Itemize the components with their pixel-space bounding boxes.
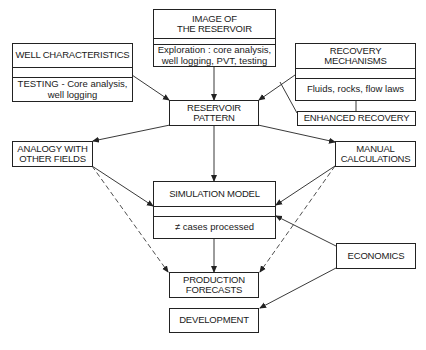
node-detail: TESTING - Core analysis, xyxy=(18,79,128,90)
node-title: PATTERN xyxy=(193,113,235,124)
node-development: DEVELOPMENT xyxy=(169,308,259,333)
node-detail: ≠ cases processed xyxy=(154,216,275,238)
edge-analogy-to-simulation xyxy=(92,166,153,206)
edge-pattern-to-analogy xyxy=(93,125,170,141)
node-title: OTHER FIELDS xyxy=(19,154,86,165)
node-simulation-model: SIMULATION MODEL ≠ cases processed xyxy=(153,181,276,239)
node-well-characteristics: WELL CHARACTERISTICS TESTING - Core anal… xyxy=(12,43,133,102)
node-title: ENHANCED RECOVERY xyxy=(298,112,415,125)
node-title: WELL CHARACTERISTICS xyxy=(13,44,132,67)
node-enhanced-recovery: ENHANCED RECOVERY xyxy=(297,111,416,126)
node-analogy-with-other-fields: ANALOGY WITH OTHER FIELDS xyxy=(12,141,93,167)
edge-well-to-pattern xyxy=(132,75,169,100)
edge-economics-to-development xyxy=(260,268,336,308)
node-recovery-mechanisms: RECOVERY MECHANISMS Fluids, rocks, flow … xyxy=(295,43,416,101)
node-title: ECONOMICS xyxy=(337,244,415,268)
node-detail: well logging xyxy=(48,90,98,101)
node-detail: Fluids, rocks, flow laws xyxy=(296,78,415,100)
node-detail: well logging, PVT, testing xyxy=(162,56,268,67)
node-economics: ECONOMICS xyxy=(336,243,416,269)
node-spacer xyxy=(154,206,275,216)
node-spacer xyxy=(13,67,132,77)
edge-pattern-to-manual xyxy=(258,125,335,142)
node-reservoir-pattern: RESERVOIR PATTERN xyxy=(169,100,259,126)
node-title: THE RESERVOIR xyxy=(177,24,252,35)
node-image-of-reservoir: IMAGE OF THE RESERVOIR Exploration : cor… xyxy=(153,9,276,67)
node-spacer xyxy=(296,68,415,78)
edge-economics-to-simulation xyxy=(276,216,336,246)
node-title: SIMULATION MODEL xyxy=(154,182,275,206)
node-production-forecasts: PRODUCTION FORECASTS xyxy=(169,272,259,298)
node-title: DEVELOPMENT xyxy=(170,309,258,332)
node-title: CALCULATIONS xyxy=(341,154,411,165)
node-title: FORECASTS xyxy=(186,285,242,296)
node-manual-calculations: MANUAL CALCULATIONS xyxy=(335,141,416,167)
node-detail: Exploration : core analysis, xyxy=(158,45,272,56)
node-title: RECOVERY MECHANISMS xyxy=(296,44,415,68)
edge-recovery-to-pattern xyxy=(259,75,295,100)
edge-manual-to-simulation xyxy=(276,166,335,205)
